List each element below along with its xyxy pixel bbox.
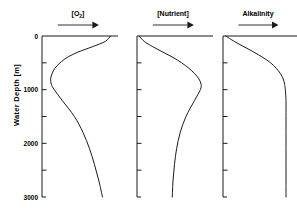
y-tick-label-0: 0 <box>12 33 38 40</box>
panel-2: [Nutrient] <box>137 0 209 211</box>
y-tick-label-1000: 1000 <box>12 86 38 93</box>
depth-profile-figure: Water Depth [m] 0100020003000 [O2][Nutri… <box>0 0 297 211</box>
panel-plot-2 <box>137 0 219 211</box>
y-axis-label: Water Depth [m] <box>10 47 24 143</box>
panel-plot-3 <box>223 0 297 211</box>
profile-curve-2 <box>139 36 201 197</box>
profile-curve-1 <box>51 36 111 197</box>
panel-1: [O2] <box>42 0 114 211</box>
y-tick-label-2000: 2000 <box>12 140 38 147</box>
panel-3: Alkalinity <box>223 0 293 211</box>
y-tick-label-3000: 3000 <box>12 194 38 201</box>
panel-plot-1 <box>42 0 124 211</box>
profile-curve-3 <box>226 36 286 197</box>
